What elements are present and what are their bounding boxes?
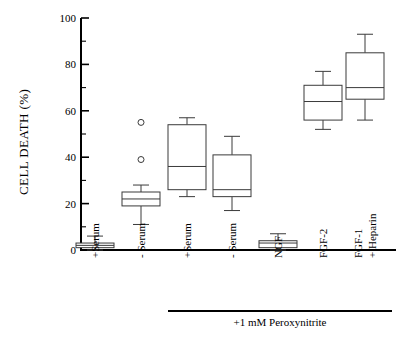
y-tick-label: 80 (65, 58, 77, 70)
x-category-label: - Serum (226, 222, 238, 258)
outlier-point (138, 157, 144, 163)
box-plot-item (346, 34, 384, 120)
outlier-point (138, 119, 144, 125)
x-category-label: NGF (272, 236, 284, 258)
box-plot-figure: CELL DEATH (%) 100 80 60 40 20 (0, 0, 407, 341)
x-category-label: FGF-2 (317, 229, 329, 258)
y-axis-tick-labels: 100 80 60 40 20 0 (60, 12, 77, 256)
box-body (346, 53, 384, 99)
x-category-label-line2: + Heparin (366, 213, 378, 258)
box-plot-item (213, 136, 251, 210)
box-plot-item (304, 71, 342, 129)
x-category-label: - Serum (135, 222, 147, 258)
y-tick-label: 20 (65, 198, 77, 210)
peroxynitrite-bracket-label: +1 mM Peroxynitrite (234, 316, 327, 328)
box-body (304, 85, 342, 120)
x-category-label: +Serum (89, 223, 101, 258)
y-tick-label: 100 (60, 12, 77, 24)
x-category-label: +Serum (181, 223, 193, 258)
chart-canvas: CELL DEATH (%) 100 80 60 40 20 (0, 0, 407, 341)
y-tick-label: 60 (65, 105, 77, 117)
y-tick-label: 40 (65, 151, 77, 163)
box-body (168, 125, 206, 190)
box-plot-item (122, 119, 160, 224)
x-category-label: FGF-1 (352, 229, 364, 258)
y-axis-title: CELL DEATH (%) (16, 89, 31, 195)
box-plot-item (168, 118, 206, 197)
box-plot-series (76, 34, 384, 250)
box-body (213, 155, 251, 197)
x-axis-category-labels: +Serum- Serum+Serum- SerumNGFFGF-2FGF-1+… (89, 213, 378, 258)
